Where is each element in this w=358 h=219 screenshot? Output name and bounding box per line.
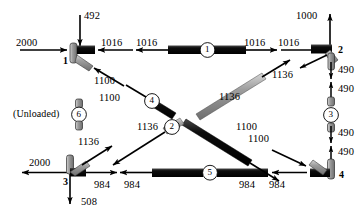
arrow-1136-joint2 <box>300 55 327 68</box>
member-6-bar-bottom <box>76 121 83 130</box>
arrow-1100-joint4 <box>272 150 306 166</box>
member-4-label: 4 <box>150 96 155 105</box>
force-label-1136-j2: 1136 <box>272 70 293 81</box>
force-label-1136-m4: 1136 <box>219 92 240 103</box>
force-label-1016-m1r: 1016 <box>244 38 265 49</box>
unloaded-note: (Unloaded) <box>13 109 60 119</box>
arrow-1136-joint3 <box>82 146 112 165</box>
force-label-2000-top: 2000 <box>16 38 37 49</box>
force-label-492: 492 <box>84 11 100 22</box>
force-label-1136-m2: 1136 <box>137 122 158 133</box>
joint-1-label: 1 <box>63 56 68 66</box>
force-label-1016-m1l: 1016 <box>136 38 157 49</box>
member-5-group <box>120 165 268 180</box>
member-2-label: 2 <box>170 122 175 131</box>
force-label-2000-bot: 2000 <box>29 158 50 169</box>
member-6-label: 6 <box>77 110 82 119</box>
joint-3-label: 3 <box>63 177 68 187</box>
joint-4-group <box>272 146 335 179</box>
force-label-490-b: 490 <box>338 84 354 95</box>
force-label-1016-j1: 1016 <box>101 38 122 49</box>
joint-3-group <box>22 146 117 204</box>
force-label-1100-m4: 1100 <box>99 93 120 104</box>
force-label-1100-m2: 1100 <box>236 122 257 133</box>
force-label-508: 508 <box>81 197 97 208</box>
force-label-1100-j1: 1100 <box>94 76 115 87</box>
force-label-984-m5l: 984 <box>124 180 140 191</box>
joint-2-label: 2 <box>338 45 343 55</box>
member-3-label: 3 <box>329 110 334 119</box>
force-label-984-m5r: 984 <box>239 180 255 191</box>
member-5-bar-left <box>152 169 203 178</box>
member-2-group <box>113 60 290 165</box>
force-label-490-d: 490 <box>338 147 354 158</box>
joint-1-group <box>20 15 133 86</box>
force-label-1016-j2: 1016 <box>278 38 299 49</box>
force-label-1000: 1000 <box>296 11 317 22</box>
force-label-490-c: 490 <box>338 128 354 139</box>
joint-4-label: 4 <box>339 170 344 180</box>
truss-diagram-figure: 1 2 3 4 1 2 3 4 5 6 (Unloaded) 492 2000 … <box>0 0 358 219</box>
member-5-label: 5 <box>208 168 213 177</box>
force-label-984-j3: 984 <box>94 180 110 191</box>
member-1-bar-right <box>214 46 246 55</box>
member-1-label: 1 <box>205 45 210 54</box>
force-label-490-a: 490 <box>338 65 354 76</box>
force-label-1136-j3: 1136 <box>78 137 99 148</box>
member-1-bar-left <box>168 46 201 55</box>
force-label-1100-j4: 1100 <box>248 134 269 145</box>
joint-1-stub-horizontal <box>77 46 95 55</box>
arrow-member2-lower <box>113 132 165 165</box>
joint-1-stub-diagonal <box>75 55 93 71</box>
force-label-984-j4: 984 <box>269 180 285 191</box>
member-3-bar-top <box>328 97 335 106</box>
